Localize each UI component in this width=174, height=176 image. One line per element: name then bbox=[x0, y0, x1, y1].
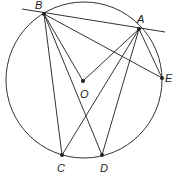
point-B bbox=[42, 12, 46, 16]
segment-OA bbox=[83, 29, 139, 81]
point-O bbox=[81, 79, 85, 83]
segment-AE bbox=[139, 29, 162, 78]
point-A bbox=[137, 27, 141, 31]
label-A: A bbox=[136, 13, 144, 25]
point-D bbox=[100, 153, 104, 157]
point-E bbox=[160, 76, 164, 80]
label-E: E bbox=[165, 72, 173, 84]
label-C: C bbox=[57, 162, 65, 174]
geometry-diagram: B A E O C D bbox=[0, 0, 174, 176]
label-O: O bbox=[80, 88, 89, 100]
segment-AC bbox=[62, 29, 139, 155]
diagram-canvas: B A E O C D bbox=[0, 0, 174, 176]
label-B: B bbox=[35, 0, 42, 11]
label-D: D bbox=[100, 162, 108, 174]
segments bbox=[22, 9, 165, 155]
point-C bbox=[60, 153, 64, 157]
points bbox=[42, 12, 164, 157]
